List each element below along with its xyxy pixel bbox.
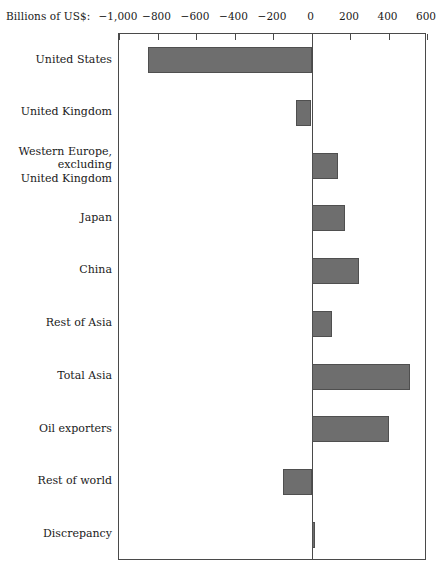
x-tick-mark [427, 34, 428, 40]
bar [312, 364, 411, 390]
axis-caption: Billions of US$: [6, 10, 90, 22]
bar [312, 522, 315, 548]
x-tick-label: −600 [181, 10, 210, 22]
bar [312, 311, 333, 337]
category-label: Discrepancy [0, 527, 112, 541]
bar [312, 205, 345, 231]
bar [312, 258, 359, 284]
x-tick-mark [158, 34, 159, 40]
x-tick-mark [350, 34, 351, 40]
x-tick-label: 0 [307, 10, 314, 22]
plot-area [118, 33, 426, 560]
x-tick-label: −1,000 [99, 10, 138, 22]
category-label: Total Asia [0, 369, 112, 383]
bar [148, 47, 312, 73]
category-label: Oil exporters [0, 422, 112, 436]
x-tick-label: 600 [416, 10, 436, 22]
x-tick-label: −800 [142, 10, 171, 22]
x-tick-label: −400 [219, 10, 248, 22]
category-label: Rest of Asia [0, 316, 112, 330]
category-label: China [0, 263, 112, 277]
bar-chart: Billions of US$: −1,000−800−600−400−2000… [0, 0, 444, 572]
zero-axis-line [312, 34, 313, 559]
x-tick-mark [119, 34, 120, 40]
x-tick-label: −200 [258, 10, 287, 22]
category-label: United States [0, 53, 112, 67]
x-tick-mark [235, 34, 236, 40]
x-tick-label: 200 [339, 10, 359, 22]
bar [312, 416, 390, 442]
bar [312, 153, 339, 179]
x-tick-mark [312, 34, 313, 40]
bar [296, 100, 311, 126]
category-label: Rest of world [0, 474, 112, 488]
x-tick-label: 400 [377, 10, 397, 22]
category-label: Western Europe, excluding United Kingdom [0, 145, 112, 186]
x-tick-mark [389, 34, 390, 40]
category-label: Japan [0, 211, 112, 225]
category-label: United Kingdom [0, 105, 112, 119]
x-tick-mark [196, 34, 197, 40]
bar [283, 469, 312, 495]
x-tick-mark [273, 34, 274, 40]
